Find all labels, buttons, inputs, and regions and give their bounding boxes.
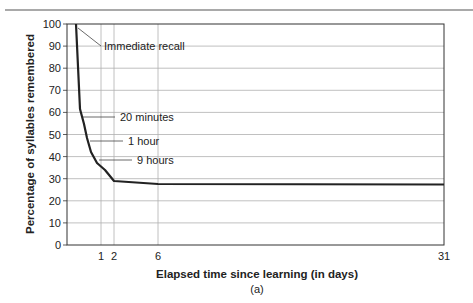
gridlines — [67, 24, 444, 245]
y-tick-label: 20 — [49, 195, 61, 207]
y-axis-ticks: 0102030405060708090100 — [43, 18, 67, 251]
annotation-leader — [78, 28, 101, 46]
x-tick-label: 2 — [111, 250, 117, 262]
x-tick-label: 6 — [155, 250, 161, 262]
annotations: Immediate recall20 minutes1 hour9 hours — [78, 28, 185, 166]
annotation-label: Immediate recall — [104, 40, 185, 52]
y-tick-label: 40 — [49, 151, 61, 163]
forgetting-curve-chart: 0102030405060708090100 12631 Immediate r… — [0, 0, 473, 303]
y-tick-label: 10 — [49, 217, 61, 229]
x-tick-label: 1 — [98, 250, 104, 262]
annotation-label: 20 minutes — [120, 111, 174, 123]
y-tick-label: 50 — [49, 129, 61, 141]
y-tick-label: 100 — [43, 18, 61, 30]
y-tick-label: 70 — [49, 84, 61, 96]
x-axis-label: Elapsed time since learning (in days) — [156, 268, 358, 280]
x-tick-label: 31 — [438, 250, 450, 262]
y-axis-label: Percentage of syllables remembered — [24, 34, 36, 234]
annotation-label: 9 hours — [137, 154, 174, 166]
figure-caption: (a) — [250, 283, 263, 295]
y-tick-label: 30 — [49, 173, 61, 185]
annotation-label: 1 hour — [128, 135, 160, 147]
y-tick-label: 0 — [55, 239, 61, 251]
y-tick-label: 90 — [49, 40, 61, 52]
y-tick-label: 60 — [49, 106, 61, 118]
x-axis-ticks: 12631 — [98, 250, 450, 262]
y-tick-label: 80 — [49, 62, 61, 74]
